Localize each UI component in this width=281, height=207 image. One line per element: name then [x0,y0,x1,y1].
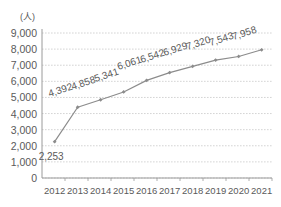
y-axis-tick-label: 1,000 [11,156,37,168]
y-axis-tick-label: 7,000 [11,59,37,71]
data-point-label: 2,253 [39,151,64,162]
data-point-marker [99,98,103,102]
y-axis-tick-label: 5,000 [11,91,37,103]
data-point-marker [191,64,195,68]
x-axis-tick-label: 2013 [67,185,88,196]
x-axis-tick-label: 2018 [182,185,203,196]
x-axis-tick-label: 2016 [136,185,157,196]
y-axis-tick-label: 4,000 [11,108,37,120]
x-axis-tick-label: 2015 [113,185,134,196]
data-point-marker [168,71,172,75]
x-axis-tick-label: 2014 [90,185,111,196]
x-axis-tick-label: 2012 [44,185,65,196]
x-axis-tick-label: 2017 [159,185,180,196]
series-line-group [55,50,262,142]
x-axis-tick-label: 2019 [205,185,226,196]
data-point-marker [214,58,218,62]
y-axis-tick-label: 3,000 [11,124,37,136]
data-point-marker [260,48,264,52]
y-axis-tick-label: 0 [31,172,37,184]
y-axis-tick-label: 6,000 [11,75,37,87]
y-axis-tick-label: 9,000 [11,27,37,39]
y-axis-tick-label: 2,000 [11,140,37,152]
series-markers-group [53,48,264,144]
line-chart: (人) 01,0002,0003,0004,0005,0006,0007,000… [0,0,281,207]
x-axis-tick-label: 2021 [251,185,272,196]
x-axis-tick-label: 2020 [228,185,249,196]
y-axis-tick-label: 8,000 [11,43,37,55]
data-point-marker [237,55,241,59]
series-line [55,50,262,142]
